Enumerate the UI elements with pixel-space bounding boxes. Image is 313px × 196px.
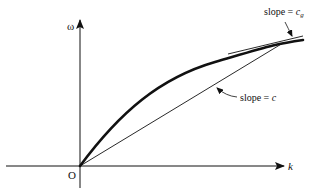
- phase-slope-label: slope = c: [240, 92, 277, 103]
- phase-velocity-chord: [80, 43, 283, 166]
- group-velocity-tangent: [228, 36, 303, 54]
- origin-label: O: [68, 169, 76, 181]
- phase-slope-arrow: [217, 88, 237, 97]
- dispersion-diagram: ω k O slope = cg slope = c: [0, 0, 313, 196]
- group-slope-label: slope = cg: [264, 6, 304, 19]
- omega-axis-label: ω: [67, 20, 74, 32]
- k-axis-label: k: [288, 160, 294, 172]
- group-slope-arrow: [285, 22, 292, 36]
- dispersion-curve: [80, 40, 303, 166]
